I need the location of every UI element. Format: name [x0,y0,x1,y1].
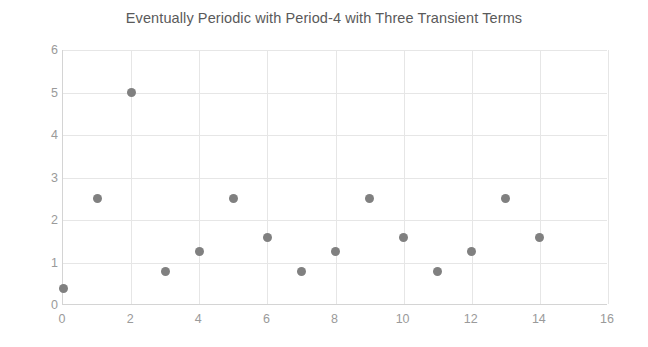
data-point [433,267,442,276]
x-axis-tick-label: 10 [383,312,423,326]
y-axis-tick-label: 5 [30,86,58,100]
y-axis-tick-label: 4 [30,128,58,142]
data-point [331,247,340,256]
y-axis-tick-label: 0 [30,298,58,312]
chart-figure: Eventually Periodic with Period-4 with T… [0,0,648,347]
x-axis-tick-label: 6 [246,312,286,326]
y-axis-tick-label: 6 [30,43,58,57]
data-point [399,233,408,242]
data-point [501,194,510,203]
data-point [59,284,68,293]
x-axis-tick-label: 8 [315,312,355,326]
data-point [229,194,238,203]
gridline-vertical [472,50,473,304]
data-point [127,88,136,97]
y-axis-tick-labels: 0123456 [0,50,58,305]
data-point [263,233,272,242]
x-axis-tick-label: 2 [110,312,150,326]
data-point [535,233,544,242]
x-axis-tick-label: 0 [42,312,82,326]
x-axis-tick-label: 12 [451,312,491,326]
y-axis-tick-label: 2 [30,213,58,227]
data-point [93,194,102,203]
gridline-vertical [404,50,405,304]
gridline-vertical [267,50,268,304]
data-point [467,247,476,256]
gridline-vertical [540,50,541,304]
data-point [195,247,204,256]
gridline-vertical [199,50,200,304]
x-axis-tick-label: 16 [587,312,627,326]
data-point [365,194,374,203]
x-axis-tick-label: 4 [178,312,218,326]
data-point [297,267,306,276]
data-point [161,267,170,276]
x-axis-tick-labels: 0246810121416 [62,312,607,332]
y-axis-tick-label: 1 [30,256,58,270]
gridline-vertical [608,50,609,304]
plot-area [62,50,607,305]
x-axis-tick-label: 14 [519,312,559,326]
chart-title: Eventually Periodic with Period-4 with T… [0,10,648,26]
gridline-vertical [336,50,337,304]
y-axis-tick-label: 3 [30,171,58,185]
